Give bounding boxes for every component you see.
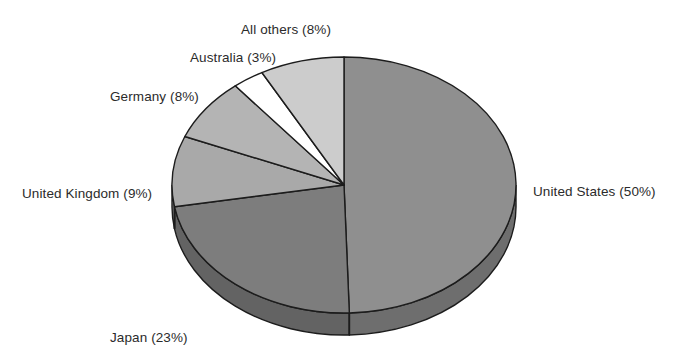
pie-slice-japan [175, 185, 350, 313]
pie-chart-graphic [0, 0, 678, 361]
slice-label-germany: Germany (8%) [110, 89, 199, 105]
pie-top-surface [172, 57, 516, 313]
slice-label-united-states: United States (50%) [533, 184, 656, 200]
slice-label-japan: Japan (23%) [110, 330, 188, 346]
slice-label-united-kingdom: United Kingdom (9%) [22, 186, 152, 202]
pie-chart-figure: United States (50%) Japan (23%) United K… [0, 0, 678, 361]
slice-label-all-others: All others (8%) [241, 22, 331, 38]
slice-label-australia: Australia (3%) [190, 50, 276, 66]
